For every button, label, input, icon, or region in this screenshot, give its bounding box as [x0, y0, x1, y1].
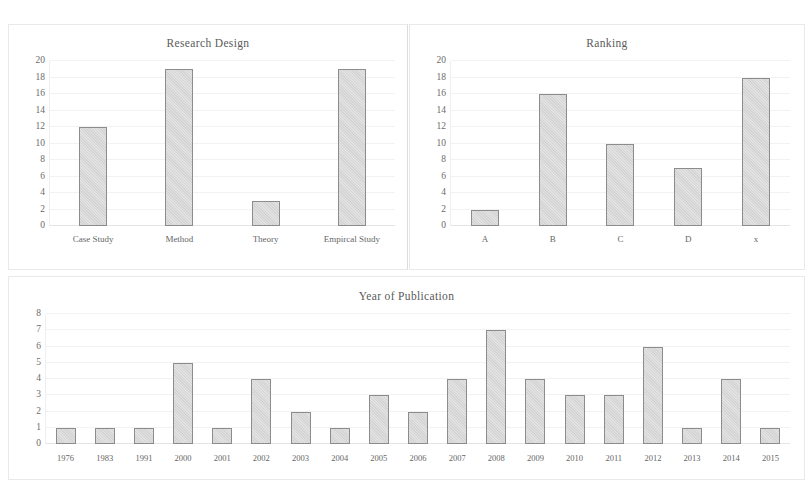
y-axis-tick-label: 20	[437, 55, 447, 65]
x-axis-tick-label: 1983	[96, 453, 113, 463]
x-axis-tick-label: D	[685, 234, 692, 244]
y-axis-tick-label: 4	[441, 187, 446, 197]
chart-panel-year-of-publication: Year of Publication 012345678 1976198319…	[8, 276, 805, 480]
bar	[408, 412, 428, 445]
bar-series-research-design: Case StudyMethodTheoryEmpircal Study	[50, 61, 395, 226]
bar	[338, 69, 366, 226]
x-axis-tick-label: 2013	[684, 453, 701, 463]
bar-slot: B	[519, 61, 587, 226]
y-axis-tick-label: 3	[36, 389, 41, 399]
y-axis-tick-label: 18	[36, 72, 46, 82]
x-axis-tick-label: Case Study	[73, 234, 114, 244]
bar	[643, 347, 663, 445]
y-axis-tick-label: 0	[441, 220, 446, 230]
bar	[252, 201, 280, 226]
x-axis-tick-label: Method	[165, 234, 193, 244]
bar	[134, 428, 154, 444]
y-axis-tick-label: 2	[40, 204, 45, 214]
bar-slot: Empircal Study	[309, 61, 395, 226]
x-axis-tick-label: 2002	[253, 453, 270, 463]
x-axis-tick-label: 2001	[214, 453, 231, 463]
x-axis-tick-label: 1976	[57, 453, 74, 463]
x-axis-tick-label: 2008	[488, 453, 505, 463]
bar-slot: 2004	[320, 314, 359, 444]
y-axis-tick-label: 12	[437, 121, 447, 131]
bar-slot: 2011	[594, 314, 633, 444]
bar-series-year-of-publication: 1976198319912000200120022003200420052006…	[46, 314, 790, 444]
bar	[525, 379, 545, 444]
bar	[760, 428, 780, 444]
x-axis-tick-label: Empircal Study	[324, 234, 380, 244]
chart-panel-research-design: Research Design 02468101214161820 Case S…	[8, 24, 408, 270]
bar-slot: D	[654, 61, 722, 226]
bar	[721, 379, 741, 444]
chart-title-year-of-publication: Year of Publication	[9, 290, 804, 302]
plot-area-ranking: 02468101214161820 ABCDx	[450, 61, 790, 226]
x-axis-tick-label: 2003	[292, 453, 309, 463]
y-axis-tick-label: 16	[437, 88, 447, 98]
bar-slot: 2000	[163, 314, 202, 444]
bar	[95, 428, 115, 444]
bar-slot: A	[451, 61, 519, 226]
bar-slot: 2013	[673, 314, 712, 444]
bar	[471, 210, 499, 227]
y-axis-tick-label: 2	[441, 204, 446, 214]
bar-series-ranking: ABCDx	[451, 61, 790, 226]
bar	[165, 69, 193, 226]
bar-slot: 1983	[85, 314, 124, 444]
bar	[330, 428, 350, 444]
y-axis-tick-label: 10	[437, 138, 447, 148]
x-axis-tick-label: 2015	[762, 453, 779, 463]
bar-slot: 2005	[359, 314, 398, 444]
bar	[79, 127, 107, 226]
bar-slot: 2015	[751, 314, 790, 444]
x-axis-tick-label: A	[482, 234, 489, 244]
plot-area-research-design: 02468101214161820 Case StudyMethodTheory…	[49, 61, 395, 226]
bar-slot: 2008	[477, 314, 516, 444]
chart-title-research-design: Research Design	[9, 37, 407, 49]
y-axis-tick-label: 6	[40, 171, 45, 181]
x-axis-tick-label: 2010	[566, 453, 583, 463]
y-axis-tick-label: 4	[40, 187, 45, 197]
y-axis-tick-label: 14	[437, 105, 447, 115]
y-axis-tick-label: 5	[36, 357, 41, 367]
bar-slot: Case Study	[50, 61, 136, 226]
y-axis-tick-label: 0	[36, 438, 41, 448]
x-axis-tick-label: Theory	[253, 234, 279, 244]
bar-slot: 2003	[281, 314, 320, 444]
y-axis-tick-label: 12	[36, 121, 46, 131]
bar	[173, 363, 193, 444]
y-axis-tick-label: 1	[36, 422, 41, 432]
bar-slot: 2010	[555, 314, 594, 444]
bar	[674, 168, 702, 226]
x-axis-tick-label: 2009	[527, 453, 544, 463]
y-axis-tick-label: 2	[36, 406, 41, 416]
y-axis-tick-label: 18	[437, 72, 447, 82]
bar	[251, 379, 271, 444]
x-axis-tick-label: 2014	[723, 453, 740, 463]
bar	[486, 330, 506, 444]
bar-slot: 2012	[633, 314, 672, 444]
y-axis-tick-label: 8	[441, 154, 446, 164]
bar-slot: x	[722, 61, 790, 226]
y-axis-tick-label: 0	[40, 220, 45, 230]
y-axis-tick-label: 8	[36, 308, 41, 318]
chart-title-ranking: Ranking	[410, 37, 804, 49]
bar	[212, 428, 232, 444]
y-axis-tick-label: 10	[36, 138, 46, 148]
bar-slot: 2014	[712, 314, 751, 444]
y-axis-tick-label: 16	[36, 88, 46, 98]
bar	[447, 379, 467, 444]
bar-slot: 2009	[516, 314, 555, 444]
bar	[742, 78, 770, 227]
bar	[682, 428, 702, 444]
x-axis-tick-label: 2005	[370, 453, 387, 463]
plot-area-year-of-publication: 012345678 197619831991200020012002200320…	[45, 314, 790, 444]
x-axis-tick-label: 2011	[605, 453, 622, 463]
bar	[604, 395, 624, 444]
x-axis-tick-label: 2000	[175, 453, 192, 463]
bar-slot: Method	[136, 61, 222, 226]
bar-slot: Theory	[223, 61, 309, 226]
bar	[291, 412, 311, 445]
y-axis-tick-label: 20	[36, 55, 46, 65]
